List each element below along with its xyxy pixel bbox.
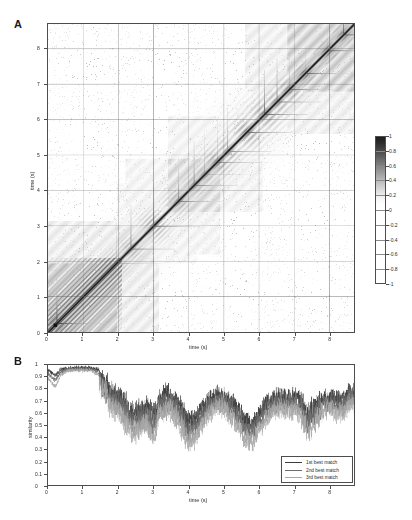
colorbar-gridline <box>376 210 385 211</box>
colorbar-gridline <box>376 269 385 270</box>
colorbar-gridline <box>376 151 385 152</box>
panel-a-xtick-label: 4 <box>187 336 190 342</box>
panel-b-ytick <box>44 413 47 414</box>
panel-a-label: A <box>14 18 22 30</box>
colorbar-tick-label: -0.4 <box>389 237 398 243</box>
legend-label: 2nd best match <box>306 467 339 475</box>
panel-b-ytick <box>44 364 47 365</box>
panel-a-ytick <box>44 190 47 191</box>
colorbar-gridline <box>376 166 385 167</box>
panel-b-ytick <box>44 462 47 463</box>
panel-b-xtick-label: 3 <box>151 489 154 495</box>
legend-line-swatch <box>285 477 302 478</box>
panel-a-ytick-label: 3 <box>37 223 40 229</box>
figure-root: A 012345678012345678 time (s) time (s) 1… <box>0 0 412 520</box>
panel-a-xtick-label: 5 <box>222 336 225 342</box>
panel-a-xaxis-title: time (s) <box>189 344 207 350</box>
panel-a-ytick-label: 4 <box>37 187 40 193</box>
panel-b-ytick <box>44 437 47 438</box>
panel-b-ytick-label: 0.1 <box>35 471 42 477</box>
panel-a-ytick-label: 0 <box>37 330 40 336</box>
colorbar-gridline <box>376 254 385 255</box>
panel-a-ytick-label: 7 <box>37 81 40 87</box>
panel-b-xtick-label: 6 <box>257 489 260 495</box>
panel-b-ytick <box>44 425 47 426</box>
legend-label: 1st best match <box>306 459 337 467</box>
panel-a-yaxis-title: time (s) <box>29 172 35 190</box>
panel-a-ytick-label: 2 <box>37 259 40 265</box>
legend-item: 3rd best match <box>285 474 349 482</box>
panel-a-ytick <box>44 48 47 49</box>
panel-b-ytick <box>44 401 47 402</box>
panel-a-xtick-label: 8 <box>328 336 331 342</box>
panel-b-xtick-label: 4 <box>187 489 190 495</box>
panel-b-ytick-label: 0.7 <box>35 398 42 404</box>
panel-b-ytick-label: 0.3 <box>35 446 42 452</box>
panel-b-ytick-label: 0.4 <box>35 434 42 440</box>
panel-b-ytick-label: 0.2 <box>35 459 42 465</box>
panel-b-xtick-label: 0 <box>45 489 48 495</box>
colorbar-tick-label: 0.4 <box>389 177 396 183</box>
colorbar-tick-label: -0.8 <box>389 266 398 272</box>
panel-a-xtick-label: 6 <box>257 336 260 342</box>
colorbar-gridline <box>376 240 385 241</box>
panel-b-ytick <box>44 388 47 389</box>
panel-b-ytick-label: 0.8 <box>35 385 42 391</box>
colorbar-tick-label: 0.2 <box>389 192 396 198</box>
panel-b-xtick-label: 5 <box>222 489 225 495</box>
colorbar-tick-label: 0.8 <box>389 148 396 154</box>
panel-b-label: B <box>14 355 22 367</box>
panel-a-xtick-label: 2 <box>116 336 119 342</box>
colorbar-tick-label: 1 <box>389 133 392 139</box>
panel-a-xtick-label: 0 <box>45 336 48 342</box>
panel-b-legend: 1st best match2nd best match3rd best mat… <box>281 456 353 483</box>
panel-b-xtick-label: 1 <box>80 489 83 495</box>
panel-b-ytick-label: 0.5 <box>35 422 42 428</box>
panel-b-xtick-label: 2 <box>116 489 119 495</box>
panel-a-ytick <box>44 333 47 334</box>
colorbar-tick-label: -0.6 <box>389 251 398 257</box>
legend-line-swatch <box>285 462 302 463</box>
panel-a-ytick-label: 8 <box>37 45 40 51</box>
panel-a-ytick <box>44 155 47 156</box>
panel-a-ytick <box>44 226 47 227</box>
panel-b-ytick-label: 1 <box>35 361 38 367</box>
legend-label: 3rd best match <box>306 474 338 482</box>
colorbar-gridline <box>376 225 385 226</box>
legend-line-swatch <box>285 470 302 471</box>
panel-b-ytick <box>44 486 47 487</box>
panel-b-xtick-label: 8 <box>328 489 331 495</box>
panel-b-ytick <box>44 474 47 475</box>
colorbar-tick-label: -1 <box>389 281 393 287</box>
panel-a-xtick-label: 1 <box>80 336 83 342</box>
panel-a-ytick <box>44 297 47 298</box>
panel-a-xtick-label: 7 <box>293 336 296 342</box>
panel-a-ytick <box>44 84 47 85</box>
panel-b-ytick <box>44 376 47 377</box>
colorbar-gridline <box>376 180 385 181</box>
panel-b-xtick-label: 7 <box>293 489 296 495</box>
panel-a-xtick-label: 3 <box>151 336 154 342</box>
panel-a-plot-area <box>47 23 355 333</box>
legend-item: 1st best match <box>285 459 349 467</box>
panel-a-ytick <box>44 262 47 263</box>
colorbar-tick-label: -0.2 <box>389 222 398 228</box>
panel-b-xaxis-title: time (s) <box>189 497 207 503</box>
colorbar-tick-label: 0.6 <box>389 163 396 169</box>
legend-item: 2nd best match <box>285 467 349 475</box>
panel-a-ytick <box>44 119 47 120</box>
panel-b-ytick-label: 0.9 <box>35 373 42 379</box>
panel-a-ytick-label: 5 <box>37 152 40 158</box>
colorbar-tick-label: 0 <box>389 207 392 213</box>
panel-b-ytick-label: 0.6 <box>35 410 42 416</box>
panel-a-ytick-label: 1 <box>37 294 40 300</box>
panel-b-yaxis-title: similarity <box>27 417 33 438</box>
panel-a-ytick-label: 6 <box>37 116 40 122</box>
panel-b-ytick <box>44 449 47 450</box>
recurrence-plot-canvas <box>48 24 354 332</box>
panel-b-ytick-label: 0 <box>35 483 38 489</box>
colorbar-gridline <box>376 195 385 196</box>
